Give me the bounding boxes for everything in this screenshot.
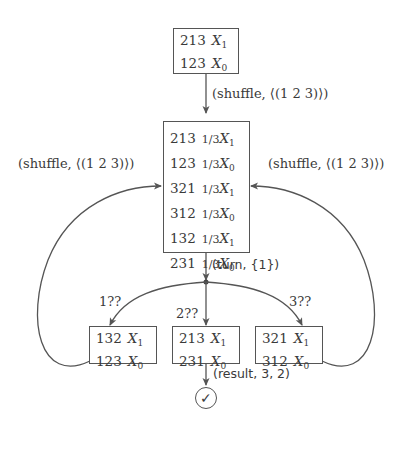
edge-label-shuffle-left: (shuffle, ⟨(1 2 3)⟩) <box>18 156 134 171</box>
accept-check-icon: ✓ <box>195 387 217 409</box>
node-row: 3121/3X0 <box>170 203 243 228</box>
node-row: 213X1 <box>180 31 232 54</box>
diagram-canvas: 213X1 123X0 (shuffle, ⟨(1 2 3)⟩) 2131/3X… <box>0 0 412 449</box>
edge-label-result: (result, 3, 2) <box>213 366 290 381</box>
edge-fork-to-right <box>206 282 302 325</box>
node-row: 1231/3X0 <box>170 153 243 178</box>
edge-label-shuffle-right: (shuffle, ⟨(1 2 3)⟩) <box>268 156 384 171</box>
node-row: 123X0 <box>96 352 150 375</box>
node-row: 213X1 <box>179 329 233 352</box>
node-left: 132X1 123X0 <box>89 326 157 364</box>
node-row: 3211/3X1 <box>170 178 243 203</box>
node-row: 1321/3X1 <box>170 228 243 253</box>
node-row: 321X1 <box>262 329 316 352</box>
node-center: 213X1 231X0 <box>172 326 240 364</box>
branch-label-3: 3?? <box>289 294 311 309</box>
node-top: 213X1 123X0 <box>173 28 239 74</box>
node-row: 123X0 <box>180 54 232 77</box>
node-row: 132X1 <box>96 329 150 352</box>
node-row: 2131/3X1 <box>170 128 243 153</box>
branch-label-1: 1?? <box>99 294 121 309</box>
node-middle: 2131/3X1 1231/3X0 3211/3X1 3121/3X0 1321… <box>163 121 250 253</box>
branch-label-2: 2?? <box>176 306 198 321</box>
edge-label-shuffle-top: (shuffle, ⟨(1 2 3)⟩) <box>212 86 328 101</box>
edge-label-turn: (turn, {1}) <box>212 257 279 272</box>
node-right: 321X1 312X0 <box>255 326 323 364</box>
